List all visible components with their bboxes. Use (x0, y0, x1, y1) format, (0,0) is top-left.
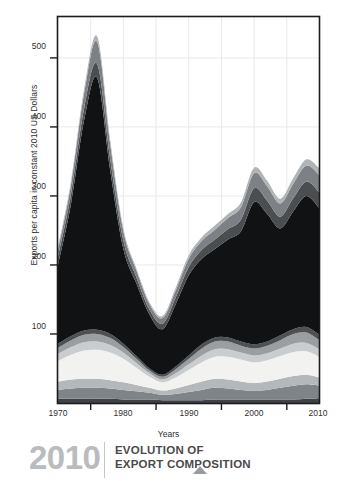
triangle-up-icon (193, 466, 207, 474)
area-chart-plot (0, 0, 337, 481)
footer-divider (104, 442, 105, 478)
footer-title-line2: EXPORT COMPOSITION (115, 458, 251, 472)
chart-figure: Exports per capita in constant 2010 US D… (0, 0, 337, 481)
footer-banner: 2010 EVOLUTION OF EXPORT COMPOSITION (0, 441, 337, 481)
footer-title-line1: EVOLUTION OF (115, 444, 251, 458)
footer-year: 2010 (29, 438, 100, 478)
footer-title: EVOLUTION OF EXPORT COMPOSITION (115, 444, 251, 471)
